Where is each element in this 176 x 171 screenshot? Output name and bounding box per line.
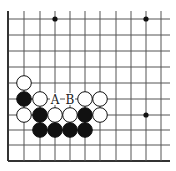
go-board: AB [0, 0, 176, 171]
star-point [143, 16, 148, 21]
star-point [143, 112, 148, 117]
white-stone [93, 92, 108, 107]
point-label-a: A [50, 93, 60, 107]
white-stone [48, 108, 63, 123]
white-stone [93, 108, 108, 123]
white-stone [78, 92, 93, 107]
star-point [52, 16, 57, 21]
point-label-b: B [66, 93, 75, 107]
black-stone [33, 108, 48, 123]
grid-lines [8, 11, 170, 161]
black-stone [48, 123, 63, 138]
white-stone [63, 108, 78, 123]
black-stone [17, 92, 32, 107]
black-stone [33, 123, 48, 138]
black-stone [63, 123, 78, 138]
white-stone [33, 92, 48, 107]
black-stone [78, 123, 93, 138]
white-stone [17, 76, 32, 91]
black-stone [78, 108, 93, 123]
stones [17, 76, 108, 138]
white-stone [17, 108, 32, 123]
